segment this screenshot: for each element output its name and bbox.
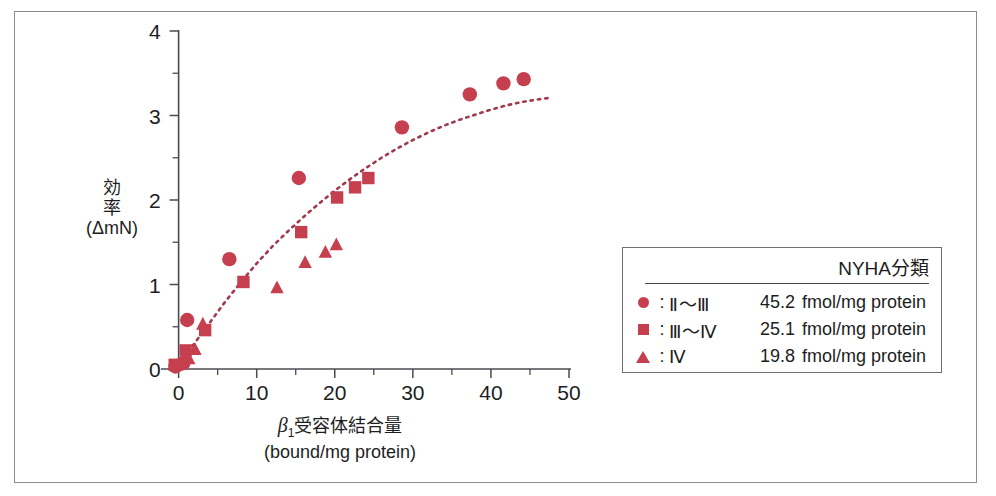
legend-title: NYHA分類 bbox=[838, 253, 929, 280]
square-marker-point bbox=[295, 226, 307, 238]
legend-value: 45.2 bbox=[747, 292, 795, 313]
legend-nyha-class: Ⅲ～Ⅳ bbox=[669, 317, 747, 343]
triangle-marker-point bbox=[196, 317, 209, 330]
x-tick-label-10: 10 bbox=[245, 381, 268, 404]
beta-symbol: β bbox=[278, 414, 288, 436]
legend-value: 19.8 bbox=[747, 346, 795, 367]
square-marker bbox=[633, 324, 653, 335]
circle-marker-point bbox=[517, 72, 531, 86]
x-tick-label-0: 0 bbox=[173, 381, 185, 404]
legend-nyha-class: Ⅳ bbox=[669, 346, 747, 368]
legend-value: 25.1 bbox=[747, 319, 795, 340]
figure-root: 0102030405001234 効 率 (ΔmN) β1受容体結合量 (bou… bbox=[0, 0, 996, 496]
y-axis-title-line2: 率 bbox=[58, 198, 166, 218]
x-tick-label-20: 20 bbox=[323, 381, 346, 404]
data-points-group bbox=[168, 72, 531, 374]
y-tick-label-1: 1 bbox=[149, 274, 161, 297]
x-axis-title-text: 受容体結合量 bbox=[294, 416, 402, 436]
x-axis-title: β1受容体結合量 (bound/mg protein) bbox=[210, 412, 470, 465]
circle-marker-point bbox=[180, 313, 194, 327]
plot-area: 0102030405001234 効 率 (ΔmN) β1受容体結合量 (bou… bbox=[0, 0, 620, 496]
trend-curve bbox=[174, 98, 550, 369]
circle-marker-glyph bbox=[638, 297, 649, 308]
legend-unit: fmol/mg protein bbox=[802, 319, 926, 340]
triangle-marker-glyph bbox=[636, 351, 650, 363]
circle-marker-point bbox=[222, 252, 236, 266]
triangle-marker-point bbox=[330, 237, 343, 250]
circle-marker bbox=[633, 297, 653, 308]
circle-marker-point bbox=[292, 171, 306, 185]
circle-marker-point bbox=[463, 87, 477, 101]
y-tick-label-3: 3 bbox=[149, 105, 161, 128]
legend-row: :Ⅳ19.8fmol/mg protein bbox=[633, 343, 933, 370]
legend-rows: :Ⅱ～Ⅲ45.2fmol/mg protein:Ⅲ～Ⅳ25.1fmol/mg p… bbox=[633, 289, 933, 370]
triangle-marker-point bbox=[270, 280, 283, 293]
circle-marker-point bbox=[496, 76, 510, 90]
legend-nyha-class: Ⅱ～Ⅲ bbox=[669, 290, 747, 316]
square-marker-point bbox=[237, 276, 249, 288]
x-tick-label-30: 30 bbox=[401, 381, 424, 404]
square-marker-point bbox=[331, 191, 343, 203]
triangle-marker-point bbox=[298, 255, 311, 268]
legend-colon: : bbox=[655, 319, 669, 340]
legend: NYHA分類 :Ⅱ～Ⅲ45.2fmol/mg protein:Ⅲ～Ⅳ25.1fm… bbox=[622, 247, 942, 373]
legend-unit: fmol/mg protein bbox=[802, 346, 926, 367]
tick-label-group: 0102030405001234 bbox=[149, 20, 581, 404]
x-tick-label-40: 40 bbox=[479, 381, 502, 404]
x-axis-title-line1: β1受容体結合量 bbox=[210, 412, 470, 441]
legend-unit: fmol/mg protein bbox=[802, 292, 926, 313]
y-tick-label-4: 4 bbox=[149, 20, 161, 43]
legend-row: :Ⅲ～Ⅳ25.1fmol/mg protein bbox=[633, 316, 933, 343]
triangle-marker-point bbox=[319, 245, 332, 258]
square-marker-point bbox=[349, 181, 361, 193]
legend-colon: : bbox=[655, 292, 669, 313]
square-marker-glyph bbox=[638, 324, 649, 335]
x-axis-title-line2: (bound/mg protein) bbox=[210, 441, 470, 464]
y-axis-title-line1: 効 bbox=[58, 178, 166, 198]
circle-marker-point bbox=[395, 120, 409, 134]
trend-curve-group bbox=[174, 98, 550, 369]
triangle-marker bbox=[633, 351, 653, 363]
x-tick-label-50: 50 bbox=[557, 381, 580, 404]
y-tick-label-0: 0 bbox=[149, 358, 161, 381]
legend-divider bbox=[645, 283, 929, 284]
y-axis-title: 効 率 (ΔmN) bbox=[58, 178, 166, 238]
legend-row: :Ⅱ～Ⅲ45.2fmol/mg protein bbox=[633, 289, 933, 316]
square-marker-point bbox=[362, 172, 374, 184]
legend-colon: : bbox=[655, 346, 669, 367]
y-axis-title-line3: (ΔmN) bbox=[58, 218, 166, 238]
